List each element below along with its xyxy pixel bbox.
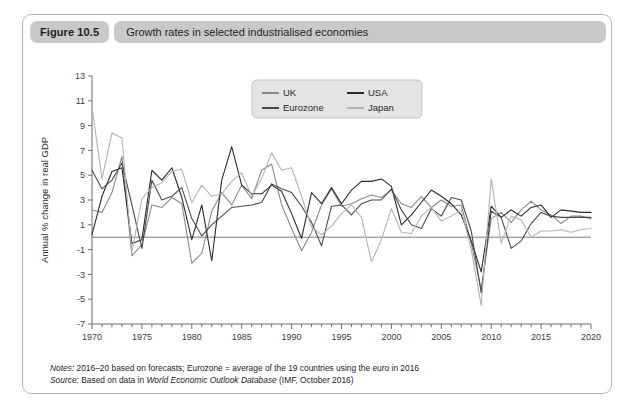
x-tick-label: 1975 xyxy=(132,332,152,342)
growth-rates-line-chart: 131197531-1-3-5-719701975198019851990199… xyxy=(30,46,606,357)
footer-source-label: Source: xyxy=(50,375,79,385)
x-tick-label: 2005 xyxy=(431,332,451,342)
legend-label-eurozone: Eurozone xyxy=(283,102,324,113)
legend-label-japan: Japan xyxy=(368,102,394,113)
x-tick-label: 1990 xyxy=(282,332,302,342)
series-line-usa xyxy=(92,147,591,272)
x-tick-label: 1980 xyxy=(182,332,202,342)
y-tick-label: 1 xyxy=(80,220,85,230)
y-tick-label: -5 xyxy=(77,294,85,304)
x-tick-label: 1985 xyxy=(232,332,252,342)
x-tick-label: 2010 xyxy=(481,332,501,342)
y-tick-label: -1 xyxy=(77,245,85,255)
figure-footer: Notes: 2016–20 based on forecasts; Euroz… xyxy=(50,363,595,386)
y-tick-label: 11 xyxy=(76,96,85,106)
y-tick-label: 7 xyxy=(80,146,85,156)
y-tick-label: -7 xyxy=(77,319,85,329)
figure-container: Figure 10.5 Growth rates in selected ind… xyxy=(22,14,612,394)
chart-plot-area: 131197531-1-3-5-719701975198019851990199… xyxy=(30,46,606,357)
footer-notes-line: Notes: 2016–20 based on forecasts; Euroz… xyxy=(50,363,595,375)
y-tick-label: 3 xyxy=(80,195,85,205)
y-tick-label: 13 xyxy=(75,71,85,81)
x-tick-label: 2000 xyxy=(381,332,401,342)
y-tick-label: 9 xyxy=(80,121,85,131)
figure-number-badge: Figure 10.5 xyxy=(30,21,109,43)
legend-background xyxy=(252,80,422,118)
footer-source-pre: Based on data in xyxy=(79,375,147,385)
x-tick-label: 1970 xyxy=(82,332,102,342)
chart-legend: UKUSAEurozoneJapan xyxy=(252,80,422,118)
x-tick-label: 2015 xyxy=(531,332,551,342)
chart-series xyxy=(92,107,591,305)
footer-source-title: World Economic Outlook Database xyxy=(146,375,276,385)
x-tick-label: 1995 xyxy=(331,332,351,342)
x-tick-label: 2020 xyxy=(581,332,601,342)
y-axis-title: Annual % change in real GDP xyxy=(39,137,50,263)
footer-source-line: Source: Based on data in World Economic … xyxy=(50,375,595,387)
figure-caption: Growth rates in selected industrialised … xyxy=(114,21,606,43)
y-tick-label: 5 xyxy=(80,170,85,180)
footer-notes-label: Notes: xyxy=(50,363,74,373)
legend-label-usa: USA xyxy=(368,87,388,98)
series-line-eurozone xyxy=(92,163,591,293)
legend-label-uk: UK xyxy=(283,87,297,98)
figure-header: Figure 10.5 Growth rates in selected ind… xyxy=(30,21,606,43)
footer-source-post: (IMF, October 2016) xyxy=(277,375,354,385)
footer-notes-text: 2016–20 based on forecasts; Eurozone = a… xyxy=(74,363,419,373)
y-tick-label: -3 xyxy=(77,270,85,280)
